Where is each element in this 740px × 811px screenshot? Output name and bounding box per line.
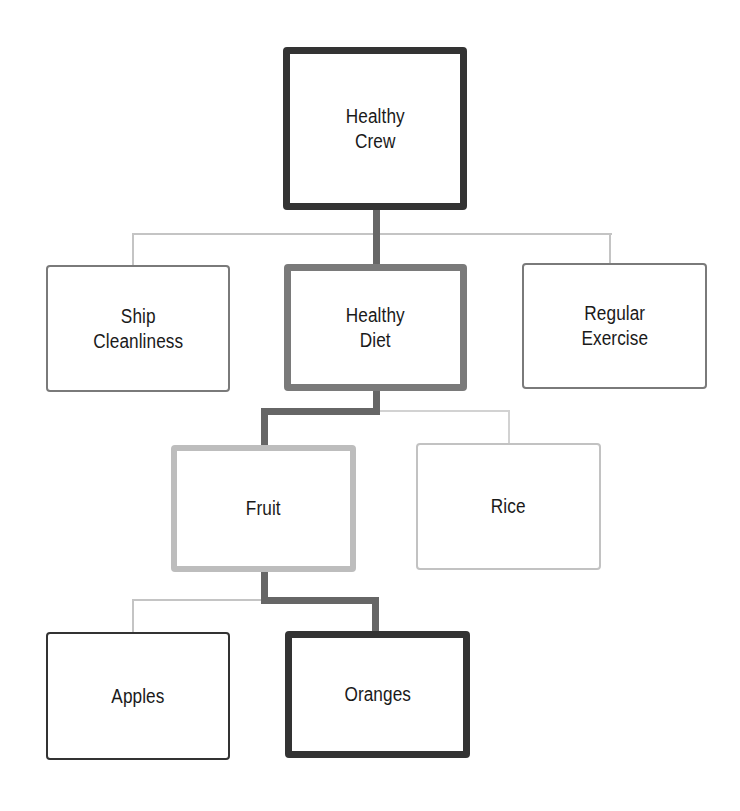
node-label: Oranges — [344, 682, 411, 707]
node-label: Regular Exercise — [581, 301, 648, 351]
node-label: Apples — [111, 684, 164, 709]
node-rice[interactable]: Rice — [416, 443, 601, 570]
node-healthy-diet[interactable]: Healthy Diet — [284, 264, 467, 391]
connector-level1-horizontal — [132, 233, 612, 235]
connector-fruit-to-oranges-horizontal — [261, 597, 379, 604]
node-label: Healthy Diet — [346, 303, 405, 353]
connector-to-apples — [132, 599, 134, 633]
connector-crew-to-diet — [373, 208, 380, 268]
connector-fruit-to-apples-horizontal — [132, 599, 264, 601]
node-regular-exercise[interactable]: Regular Exercise — [522, 263, 707, 389]
connector-to-fruit — [261, 408, 268, 448]
connector-diet-to-rice-horizontal — [376, 410, 510, 412]
node-oranges[interactable]: Oranges — [285, 631, 470, 758]
connector-diet-to-fruit-horizontal — [261, 408, 380, 415]
connector-to-oranges — [372, 597, 379, 634]
hierarchy-diagram: Healthy Crew Ship Cleanliness Healthy Di… — [0, 0, 740, 811]
connector-to-ship-cleanliness — [132, 233, 134, 266]
connector-to-rice — [508, 410, 510, 444]
node-label: Rice — [491, 494, 526, 519]
node-label: Healthy Crew — [346, 104, 405, 154]
node-ship-cleanliness[interactable]: Ship Cleanliness — [46, 265, 230, 392]
connector-to-regular-exercise — [609, 233, 611, 264]
node-label: Ship Cleanliness — [93, 304, 183, 354]
node-apples[interactable]: Apples — [46, 632, 230, 760]
node-fruit[interactable]: Fruit — [171, 445, 356, 572]
node-label: Fruit — [246, 496, 281, 521]
node-healthy-crew[interactable]: Healthy Crew — [283, 47, 467, 210]
